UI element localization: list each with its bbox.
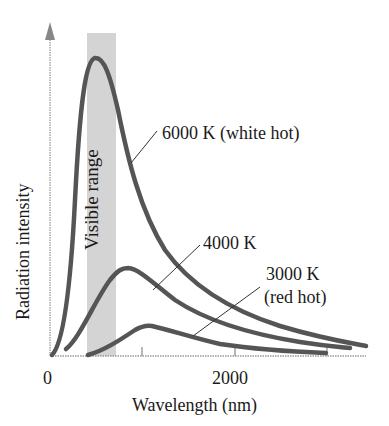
x-tick-0: 0 xyxy=(43,368,52,388)
label-red-hot: (red hot) xyxy=(264,287,326,308)
y-axis-label: Radiation intensity xyxy=(13,184,33,321)
label-3000k: 3000 K xyxy=(266,264,320,284)
label-4000k: 4000 K xyxy=(203,233,257,253)
x-tick-2000: 2000 xyxy=(212,368,248,388)
label-6000k: 6000 K (white hot) xyxy=(162,123,299,144)
y-axis-arrow-icon xyxy=(45,22,55,40)
visible-range-label: Visible range xyxy=(81,149,102,250)
x-axis-label: Wavelength (nm) xyxy=(132,395,257,416)
blackbody-chart: Visible range Radiation intensity 6000 K… xyxy=(0,0,389,426)
